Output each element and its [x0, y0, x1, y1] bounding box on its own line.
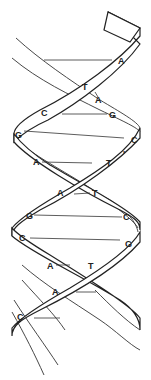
- base-label: A: [95, 95, 102, 105]
- base-label: C: [131, 135, 138, 145]
- base-label: G: [125, 239, 132, 249]
- base-label: T: [82, 82, 88, 92]
- base-label: C: [41, 108, 48, 118]
- base-label: G: [26, 211, 33, 221]
- base-label: A: [118, 56, 125, 66]
- base-label: C: [123, 212, 130, 222]
- base-label: A: [52, 287, 59, 297]
- base-label: C: [17, 312, 24, 322]
- base-label: ': [123, 149, 125, 159]
- base-label: A: [33, 157, 40, 167]
- base-label: T: [92, 188, 98, 198]
- base-label: C: [19, 233, 26, 243]
- base-label: G: [109, 110, 116, 120]
- base-label: A: [57, 188, 64, 198]
- dna-helix-diagram: ATACGGCAT'ATGCCGATAC: [0, 0, 151, 380]
- base-label: T: [106, 158, 112, 168]
- base-label: G: [15, 130, 22, 140]
- base-label: A: [47, 261, 54, 271]
- base-label: T: [88, 261, 94, 271]
